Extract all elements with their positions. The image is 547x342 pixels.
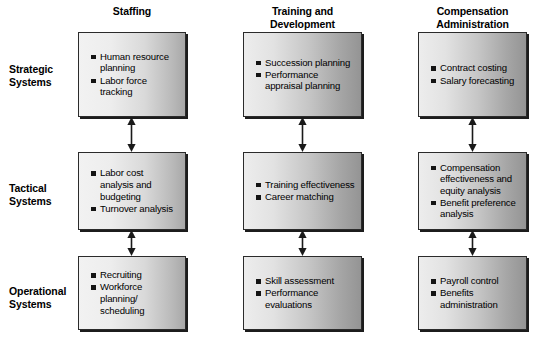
cell-item-list: Labor cost analysis and budgeting Turnov… — [79, 167, 185, 214]
cell-strategic-staffing: Human resource planning Labor force trac… — [78, 32, 186, 117]
list-item: Skill assessment — [256, 275, 355, 287]
list-item: Training effectiveness — [256, 179, 355, 191]
column-header-staffing: Staffing — [78, 5, 186, 18]
list-item: Performance appraisal planning — [256, 69, 355, 92]
connector-arrow-compensation-tactical-operational — [467, 230, 478, 256]
row-label-operational-systems: Operational Systems — [9, 285, 77, 310]
cell-tactical-training-and-development: Training effectiveness Career matching — [243, 152, 362, 230]
list-item: Labor cost analysis and budgeting — [91, 167, 179, 202]
hris-matrix-diagram: Staffing Training and Development Compen… — [0, 0, 547, 342]
cell-item-list: Succession planning Performance appraisa… — [244, 57, 361, 93]
cell-item-list: Recruiting Workforce planning/ schedulin… — [79, 269, 185, 316]
list-item: Human resource planning — [91, 51, 179, 74]
cell-item-list: Payroll control Benefits administration — [419, 275, 526, 311]
cell-item-list: Skill assessment Performance evaluations — [244, 275, 361, 311]
list-item: Benefits administration — [431, 287, 520, 310]
list-item: Succession planning — [256, 57, 355, 69]
cell-tactical-staffing: Labor cost analysis and budgeting Turnov… — [78, 152, 186, 230]
column-header-compensation-administration: Compensation Administration — [418, 5, 527, 30]
list-item: Workforce planning/ scheduling — [91, 281, 179, 316]
list-item: Payroll control — [431, 275, 520, 287]
cell-operational-staffing: Recruiting Workforce planning/ schedulin… — [78, 256, 186, 330]
list-item: Performance evaluations — [256, 287, 355, 310]
cell-strategic-compensation-administration: Contract costing Salary forecasting — [418, 32, 527, 117]
list-item: Turnover analysis — [91, 203, 179, 215]
cell-item-list: Contract costing Salary forecasting — [419, 62, 526, 86]
connector-arrow-training-strategic-tactical — [297, 117, 308, 152]
cell-item-list: Training effectiveness Career matching — [244, 179, 361, 203]
list-item: Compensation effectiveness and equity an… — [431, 162, 520, 197]
list-item: Benefit preference analysis — [431, 197, 520, 220]
list-item: Salary forecasting — [431, 75, 520, 87]
column-header-training-and-development: Training and Development — [243, 5, 362, 30]
list-item: Career matching — [256, 191, 355, 203]
connector-arrow-compensation-strategic-tactical — [467, 117, 478, 152]
list-item: Recruiting — [91, 269, 179, 281]
cell-strategic-training-and-development: Succession planning Performance appraisa… — [243, 32, 362, 117]
list-item: Labor force tracking — [91, 75, 179, 98]
list-item: Contract costing — [431, 62, 520, 74]
row-label-tactical-systems: Tactical Systems — [9, 182, 77, 207]
cell-operational-training-and-development: Skill assessment Performance evaluations — [243, 256, 362, 330]
row-label-strategic-systems: Strategic Systems — [9, 63, 77, 88]
cell-item-list: Human resource planning Labor force trac… — [79, 51, 185, 98]
connector-arrow-training-tactical-operational — [297, 230, 308, 256]
connector-arrow-staffing-strategic-tactical — [126, 117, 137, 152]
cell-tactical-compensation-administration: Compensation effectiveness and equity an… — [418, 152, 527, 230]
cell-operational-compensation-administration: Payroll control Benefits administration — [418, 256, 527, 330]
connector-arrow-staffing-tactical-operational — [126, 230, 137, 256]
cell-item-list: Compensation effectiveness and equity an… — [419, 162, 526, 221]
